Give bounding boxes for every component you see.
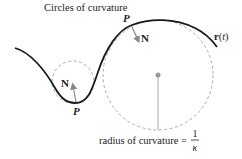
upper-point-p-label: P — [123, 12, 130, 24]
lower-normal-arrow — [73, 86, 76, 102]
diagram-title: Circles of curvature — [44, 2, 128, 13]
radius-caption: radius of curvature = — [99, 135, 187, 146]
upper-normal-arrow — [132, 27, 138, 40]
center-dot — [156, 73, 161, 78]
curve-label: r(t) — [214, 31, 229, 43]
upper-normal-n-label: N — [141, 32, 149, 44]
fraction-numerator: 1 — [193, 128, 198, 139]
curve-label-close-paren: ) — [225, 31, 229, 43]
lower-normal-n-label: N — [61, 77, 69, 89]
circles-of-curvature-diagram: Circles of curvature P N N P r(t) radius… — [0, 0, 242, 159]
fraction-denominator-kappa: κ — [193, 142, 198, 153]
lower-point-p-label: P — [73, 105, 80, 117]
curve-r-of-t — [15, 20, 217, 103]
